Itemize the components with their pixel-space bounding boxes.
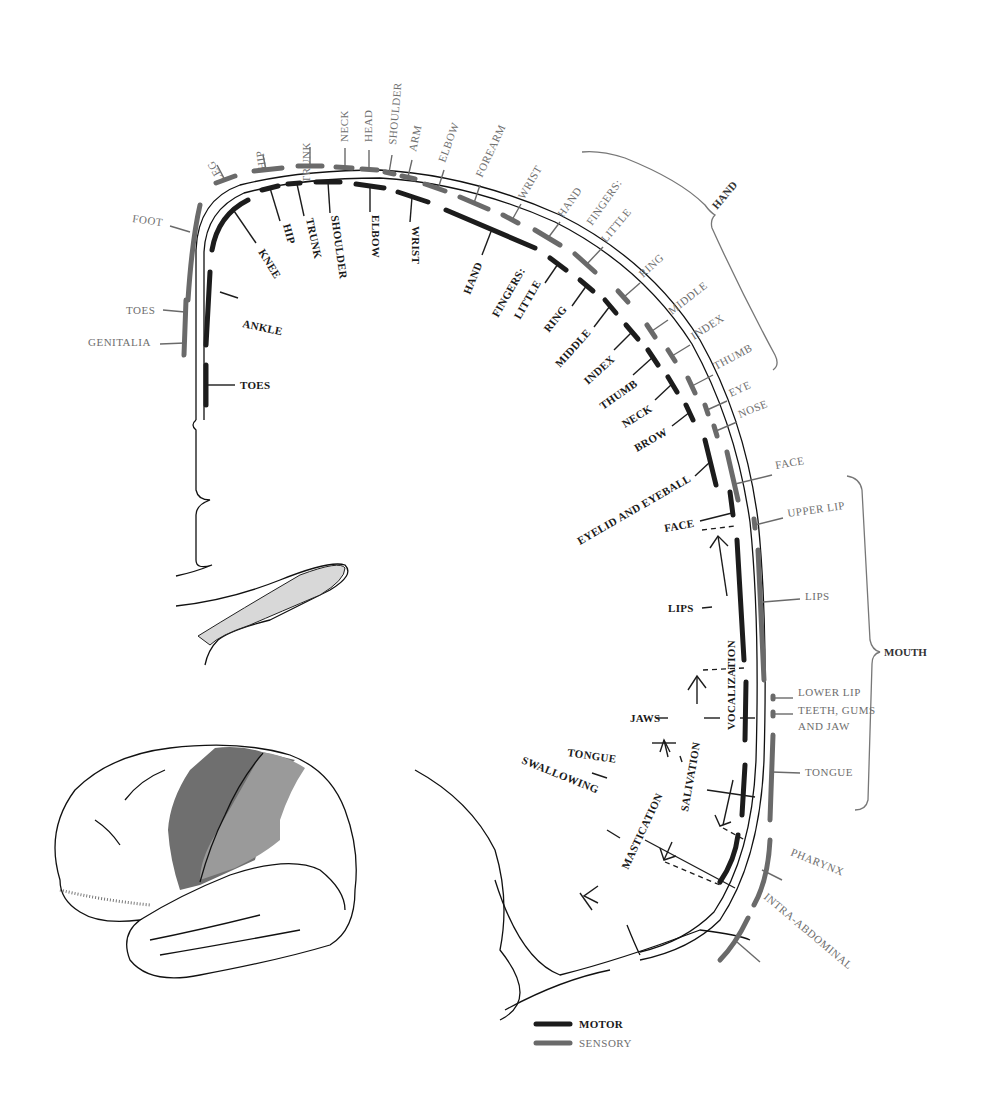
sensory-label-trunk: TRUNK (300, 142, 312, 182)
group-label-mouth: MOUTH (884, 646, 927, 658)
sensory-label-ring: RING (636, 251, 665, 279)
motor-label-shoulder: SHOULDER (329, 215, 350, 281)
motor-label-trunk: TRUNK (304, 217, 324, 260)
sensory-label-index: INDEX (689, 312, 726, 342)
motor-label-vocalization: VOCALIZATION (725, 640, 737, 730)
sensory-label-neck: NECK (338, 110, 350, 142)
motor-label-hand: HAND (461, 260, 485, 296)
sensory-label-teeth-1: TEETH, GUMS (798, 704, 876, 716)
sensory-label-shoulder: SHOULDER (386, 82, 403, 146)
sensory-label-lips: LIPS (805, 590, 830, 602)
sensory-label-genitalia: GENITALIA (88, 336, 151, 348)
legend-motor-label: MOTOR (579, 1018, 624, 1030)
motor-label-index: INDEX (581, 353, 616, 387)
sensory-label-toes: TOES (126, 304, 155, 316)
sensory-label-middle: MIDDLE (666, 279, 709, 317)
motor-label-brow: BROW (632, 425, 669, 453)
sensory-label-tongue: TONGUE (805, 766, 853, 778)
insula-stipple (198, 565, 345, 645)
motor-label-jaws: JAWS (630, 712, 661, 724)
motor-label-face: FACE (663, 517, 695, 534)
sensory-label-thumb: THUMB (711, 341, 754, 371)
motor-label-neck: NECK (620, 402, 654, 430)
motor-label-thumb: THUMB (597, 377, 639, 412)
sensory-label-pharynx: PHARYNX (789, 846, 845, 878)
sensory-label-teeth-2: AND JAW (798, 720, 850, 732)
sensory-label-arm: ARM (406, 124, 423, 152)
motor-label-mastication: MASTICATION (619, 791, 665, 871)
motor-label-toes: TOES (240, 379, 270, 391)
sensory-label-leg: LEG (204, 159, 226, 185)
sensory-label-upper-lip: UPPER LIP (787, 499, 846, 519)
homunculus-diagram: KNEE HIP TRUNK SHOULDER ELBOW WRIST HAND… (0, 0, 992, 1107)
motor-label-salivation: SALIVATION (678, 741, 702, 812)
group-label-hand: HAND (709, 179, 739, 212)
sensory-label-lower-lip: LOWER LIP (798, 686, 861, 698)
sensory-label-wrist: WRIST (515, 163, 544, 201)
sensory-label-foot: FOOT (132, 212, 164, 228)
motor-label-knee: KNEE (256, 247, 283, 281)
sensory-label-elbow: ELBOW (436, 120, 462, 163)
legend-sensory-label: SENSORY (579, 1037, 632, 1049)
sensory-label-nose: NOSE (736, 397, 769, 420)
motor-label-wrist: WRIST (410, 226, 422, 265)
sensory-label-eye: EYE (727, 378, 753, 399)
motor-label-elbow: ELBOW (370, 215, 382, 258)
mouth-brace (847, 476, 880, 810)
sensory-label-hand: HAND (555, 185, 584, 220)
motor-label-lips: LIPS (668, 602, 694, 614)
legend: MOTOR SENSORY (536, 1018, 632, 1049)
motor-labels: KNEE HIP TRUNK SHOULDER ELBOW WRIST HAND… (240, 215, 737, 871)
sensory-label-intra-abdominal: INTRA-ABDOMINAL (762, 890, 856, 971)
sensory-label-hip: HIP (253, 150, 268, 171)
sensory-label-forearm: FOREARM (473, 122, 508, 178)
motor-label-tongue: TONGUE (567, 746, 617, 765)
sensory-label-head: HEAD (362, 109, 374, 142)
motor-label-middle: MIDDLE (553, 326, 593, 369)
motor-label-ankle: ANKLE (242, 317, 284, 337)
motor-label-eyelid: EYELID AND EYEBALL (575, 472, 693, 547)
motor-label-hip: HIP (281, 222, 298, 245)
lateral-brain-view (55, 745, 356, 978)
sensory-label-face: FACE (774, 454, 805, 471)
motor-label-ring: RING (541, 303, 569, 334)
